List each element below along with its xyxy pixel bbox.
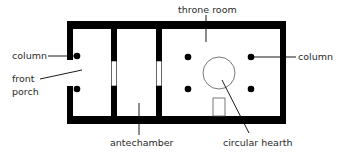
right-wall xyxy=(280,21,286,124)
leader-hearth xyxy=(222,80,249,133)
bottom-wall xyxy=(67,116,286,124)
label-column-right: column xyxy=(298,51,333,62)
column-icon xyxy=(185,54,192,61)
label-throne-room: throne room xyxy=(178,4,237,15)
label-column-left: column xyxy=(12,50,47,61)
label-antechamber: antechamber xyxy=(110,137,174,148)
throne-icon xyxy=(213,98,225,116)
doorway-2 xyxy=(156,61,161,86)
left-wall-upper xyxy=(67,21,73,60)
doorway-1 xyxy=(111,61,116,86)
left-wall-lower xyxy=(67,86,73,124)
column-icon xyxy=(248,86,255,93)
label-front: front xyxy=(12,73,35,84)
leader-front-porch xyxy=(40,70,82,79)
top-wall xyxy=(67,21,286,29)
label-circular-hearth: circular hearth xyxy=(223,137,293,148)
column-icon xyxy=(74,86,81,93)
divider-2-lower xyxy=(156,86,162,124)
column-icon xyxy=(74,53,81,60)
circular-hearth-icon xyxy=(203,57,235,89)
divider-1-lower xyxy=(111,86,117,124)
walls xyxy=(67,21,286,124)
column-icon xyxy=(185,86,192,93)
divider-1-upper xyxy=(111,21,117,61)
megaron-floor-plan: column front porch throne room column an… xyxy=(0,0,339,153)
divider-2-upper xyxy=(156,21,162,61)
doorways xyxy=(111,61,161,86)
label-porch: porch xyxy=(12,86,39,97)
